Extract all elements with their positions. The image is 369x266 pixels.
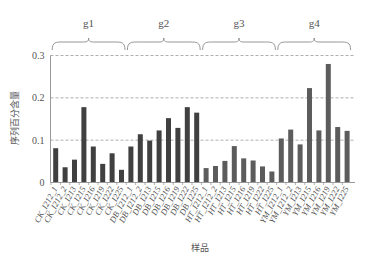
bar [138, 134, 143, 182]
x-axis-label: 样品 [191, 242, 209, 253]
bar-chart: g1g2g3g4 00.10.20.3 CK_I212_1CK_I212_2CK… [0, 0, 369, 266]
group-braces: g1g2g3g4 [52, 17, 350, 50]
bar [166, 118, 171, 182]
bar [260, 166, 265, 182]
bar [316, 130, 321, 182]
bar [157, 130, 162, 182]
group-brace [52, 38, 125, 50]
bar [326, 64, 331, 183]
bar [288, 130, 293, 183]
bar [72, 160, 77, 183]
bars [53, 64, 349, 183]
bar [147, 141, 152, 183]
bar [128, 147, 133, 183]
y-tick-label: 0 [40, 177, 45, 188]
bar [175, 128, 180, 183]
bar [232, 146, 237, 182]
bar [53, 148, 58, 182]
bar [222, 161, 227, 183]
bar [91, 147, 96, 183]
bar [204, 168, 209, 182]
bar [194, 113, 199, 183]
bar [213, 166, 218, 183]
group-label: g1 [83, 17, 94, 29]
y-tick-label: 0.2 [32, 92, 45, 103]
bar [335, 127, 340, 182]
bar [81, 107, 86, 182]
bar [345, 131, 350, 183]
bar [100, 164, 105, 183]
bar [269, 171, 274, 182]
group-brace [278, 38, 351, 50]
x-axis: CK_I212_1CK_I212_2CK_I213CK_I215CK_I216C… [32, 183, 355, 226]
bar [119, 170, 124, 183]
group-label: g2 [158, 17, 169, 29]
bar [279, 138, 284, 182]
bar [251, 160, 256, 182]
bar [63, 167, 68, 182]
y-tick-label: 0.1 [32, 135, 45, 146]
y-axis-label: 序列百分含量 [9, 91, 20, 145]
bar [110, 153, 115, 182]
bar [307, 88, 312, 182]
group-label: g4 [309, 17, 321, 29]
y-tick-label: 0.3 [32, 50, 45, 61]
bar [298, 144, 303, 182]
y-axis: 00.10.20.3 [32, 50, 51, 188]
bar [241, 158, 246, 182]
group-brace [127, 38, 200, 50]
group-brace [203, 38, 276, 50]
bar [185, 107, 190, 182]
group-label: g3 [234, 17, 246, 29]
